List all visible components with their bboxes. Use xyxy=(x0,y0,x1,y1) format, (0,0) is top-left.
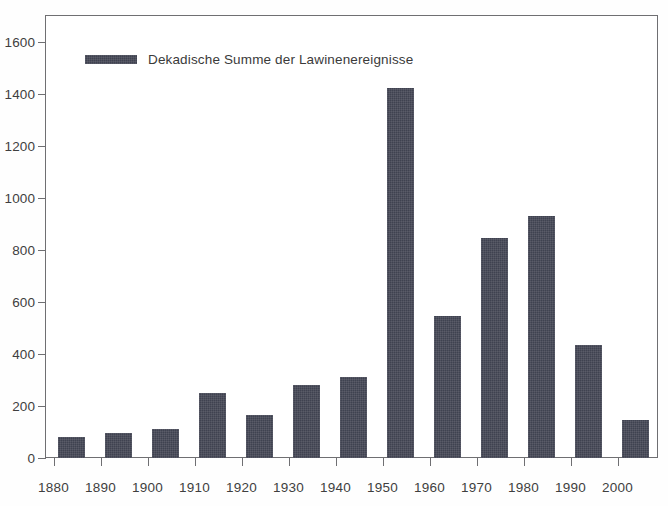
x-axis-label: 1910 xyxy=(179,480,210,495)
x-axis-tick xyxy=(148,458,149,466)
x-axis-tick xyxy=(54,458,55,466)
x-axis-label: 1970 xyxy=(461,480,492,495)
y-axis-label: 200 xyxy=(12,399,35,414)
x-axis-label: 1920 xyxy=(226,480,257,495)
bar-1990 xyxy=(575,345,602,458)
y-axis-label: 1200 xyxy=(5,139,35,154)
x-axis-tick xyxy=(336,458,337,466)
x-axis-tick xyxy=(101,458,102,466)
bar-1970 xyxy=(481,238,508,458)
x-axis-label: 1930 xyxy=(273,480,304,495)
y-axis-tick xyxy=(38,406,46,407)
y-axis-label: 400 xyxy=(12,347,35,362)
x-axis-tick xyxy=(477,458,478,466)
y-axis-label: 0 xyxy=(27,451,35,466)
y-axis-tick xyxy=(38,250,46,251)
x-axis-tick xyxy=(242,458,243,466)
x-axis-label: 1890 xyxy=(85,480,116,495)
y-axis-label: 600 xyxy=(12,295,35,310)
y-axis-label: 1600 xyxy=(5,35,35,50)
bar-1900 xyxy=(152,429,179,458)
plot-area: 0200400600800100012001400160018801890190… xyxy=(46,16,657,458)
y-axis-tick xyxy=(38,458,46,459)
x-axis-tick xyxy=(571,458,572,466)
chart-figure: 0200400600800100012001400160018801890190… xyxy=(0,0,668,506)
x-axis-tick xyxy=(383,458,384,466)
x-axis-label: 1990 xyxy=(555,480,586,495)
y-axis-tick xyxy=(38,198,46,199)
bar-1950 xyxy=(387,88,414,459)
x-axis-tick xyxy=(289,458,290,466)
bar-1920 xyxy=(246,415,273,458)
x-axis-label: 2000 xyxy=(602,480,633,495)
x-axis-label: 1960 xyxy=(414,480,445,495)
x-axis-tick xyxy=(524,458,525,466)
x-axis-label: 1950 xyxy=(367,480,398,495)
bar-1890 xyxy=(105,433,132,458)
x-axis-label: 1980 xyxy=(508,480,539,495)
y-axis-tick xyxy=(38,146,46,147)
bar-1880 xyxy=(58,437,85,458)
bar-1940 xyxy=(340,377,367,458)
legend-label: Dekadische Summe der Lawinenereignisse xyxy=(148,52,413,67)
y-axis-tick xyxy=(38,354,46,355)
bar-1960 xyxy=(434,316,461,458)
y-axis-tick xyxy=(38,302,46,303)
legend-swatch-icon xyxy=(85,55,137,64)
y-axis-label: 800 xyxy=(12,243,35,258)
x-axis-label: 1880 xyxy=(38,480,69,495)
bar-1910 xyxy=(199,393,226,458)
x-axis-label: 1940 xyxy=(320,480,351,495)
y-axis-label: 1000 xyxy=(5,191,35,206)
bar-2000 xyxy=(622,420,649,458)
bar-1930 xyxy=(293,385,320,458)
x-axis-tick xyxy=(430,458,431,466)
x-axis-tick xyxy=(195,458,196,466)
x-axis-tick xyxy=(618,458,619,466)
bar-1980 xyxy=(528,216,555,458)
y-axis-label: 1400 xyxy=(5,87,35,102)
chart-legend: Dekadische Summe der Lawinenereignisse xyxy=(85,52,413,67)
x-axis-label: 1900 xyxy=(132,480,163,495)
y-axis-tick xyxy=(38,42,46,43)
y-axis-tick xyxy=(38,94,46,95)
